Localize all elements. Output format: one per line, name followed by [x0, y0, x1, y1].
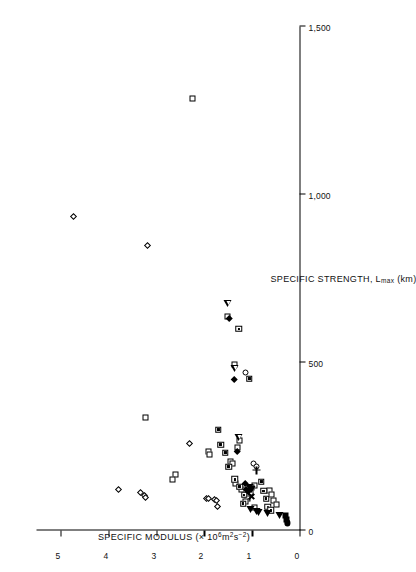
data-point-open-diamond	[185, 440, 192, 447]
x-tick-label: 500	[308, 358, 323, 368]
data-point-open-square	[169, 476, 175, 482]
data-point-cross	[247, 492, 255, 500]
data-point-dot-square	[225, 463, 232, 470]
x-tick-label: 1,000	[308, 190, 330, 200]
data-point-dot-square	[260, 487, 267, 494]
data-point-open-square	[206, 451, 212, 457]
data-point-filled-triangle-left	[245, 484, 253, 491]
y-axis-title: SPECIFIC MODULUS (× 106m2s−2)	[42, 531, 306, 542]
y-tick-label: 2	[198, 550, 203, 560]
x-tick	[299, 361, 305, 362]
y-tick-label: 5	[55, 550, 60, 560]
data-point-dot-square	[239, 500, 246, 507]
y-tick-label: 0	[294, 550, 299, 560]
data-point-filled-triangle-left	[275, 512, 283, 519]
data-point-dot-square	[246, 375, 253, 382]
data-point-open-diamond	[213, 503, 220, 510]
data-point-open-diamond	[115, 485, 122, 492]
data-point-dot-square	[257, 478, 264, 485]
data-point-filled-triangle-left	[254, 508, 262, 515]
x-tick-label: 1,500	[308, 22, 330, 32]
data-point-open-triangle-left	[234, 433, 242, 440]
y-tick-label: 4	[103, 550, 108, 560]
x-tick-label: 0	[308, 526, 313, 536]
data-point-plus	[252, 466, 260, 474]
data-point-open-circle	[242, 369, 248, 375]
x-axis-title: SPECIFIC STRENGTH, Lmax (km)	[270, 273, 416, 283]
data-point-open-diamond	[143, 242, 150, 249]
data-point-open-square	[142, 414, 148, 420]
data-point-dot-square	[231, 476, 238, 483]
y-tick-label: 3	[151, 550, 156, 560]
data-point-filled-circle	[283, 520, 289, 526]
data-point-filled-triangle-left	[263, 510, 271, 517]
y-tick-label: 1	[246, 550, 251, 560]
data-point-open-diamond	[70, 212, 77, 219]
data-point-dot-square	[262, 495, 269, 502]
data-point-open-triangle-left	[230, 365, 238, 372]
data-point-dot-square	[217, 441, 224, 448]
data-point-dot-square	[214, 426, 221, 433]
x-tick	[299, 25, 305, 26]
data-point-open-triangle-left	[223, 300, 231, 307]
data-point-open-square	[189, 95, 195, 101]
y-axis-line	[36, 529, 300, 530]
data-point-dot-square	[222, 449, 229, 456]
x-tick	[299, 193, 305, 194]
data-point-filled-diamond	[230, 375, 238, 383]
data-point-dot-square	[235, 325, 242, 332]
